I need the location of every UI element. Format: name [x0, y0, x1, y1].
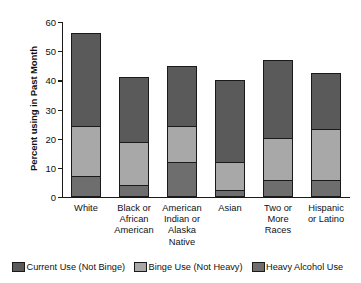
- bar-stack: [311, 73, 341, 197]
- legend-swatch: [12, 262, 25, 272]
- x-axis-label-line: White: [62, 203, 110, 214]
- x-axis-label-line: More: [254, 214, 302, 225]
- bar-segment: [263, 180, 293, 197]
- bar-segment: [119, 185, 149, 197]
- legend-label: Heavy Alcohol Use: [266, 262, 343, 272]
- bar-segment: [311, 180, 341, 198]
- y-tick-label: 50: [45, 46, 56, 57]
- bar-group: [167, 22, 197, 197]
- bar-segment: [215, 162, 245, 190]
- y-tick-label: 0: [51, 192, 56, 203]
- legend-label: Current Use (Not Binge): [27, 262, 126, 272]
- x-axis-label-line: American: [110, 225, 158, 236]
- x-axis-label: Asian: [206, 203, 254, 214]
- x-axis-label-line: Asian: [206, 203, 254, 214]
- bar-segment: [263, 60, 293, 138]
- legend-item: Binge Use (Not Heavy): [134, 262, 242, 272]
- bar-segment: [167, 162, 197, 197]
- bar-segment: [263, 138, 293, 179]
- y-axis-line: [62, 22, 63, 197]
- legend-label: Binge Use (Not Heavy): [149, 262, 243, 272]
- x-axis-line: [62, 197, 350, 198]
- bar-segment: [215, 80, 245, 162]
- bar-stack: [71, 33, 101, 197]
- y-axis-title: Percent using in Past Month: [28, 29, 39, 189]
- bar-group: [215, 22, 245, 197]
- bar-segment: [167, 126, 197, 162]
- y-tick-label: 20: [45, 133, 56, 144]
- bar-segment: [119, 142, 149, 185]
- x-axis-label-line: Black or: [110, 203, 158, 214]
- y-tick-mark: [58, 168, 62, 169]
- bar-group: [119, 22, 149, 197]
- x-axis-label-line: or Latino: [302, 214, 350, 225]
- y-tick-mark: [58, 197, 62, 198]
- bar-group: [311, 22, 341, 197]
- x-axis-label-line: American: [158, 203, 206, 214]
- y-tick-mark: [58, 22, 62, 23]
- legend-item: Current Use (Not Binge): [12, 262, 125, 272]
- x-axis-label-line: Indian or: [158, 214, 206, 225]
- x-axis-label-line: Hispanic: [302, 203, 350, 214]
- x-axis-label-line: Native: [158, 237, 206, 248]
- bar-stack: [167, 66, 197, 197]
- bar-segment: [71, 33, 101, 125]
- legend-swatch: [252, 262, 265, 272]
- x-axis-label-line: Races: [254, 225, 302, 236]
- bar-stack: [263, 60, 293, 197]
- x-axis-label: Two orMoreRaces: [254, 203, 302, 237]
- bar-stack: [215, 80, 245, 197]
- y-tick-mark: [58, 110, 62, 111]
- bar-segment: [311, 129, 341, 179]
- x-axis-label-line: Alaska: [158, 225, 206, 236]
- bar-segment: [71, 176, 101, 197]
- legend-swatch: [134, 262, 147, 272]
- bar-group: [71, 22, 101, 197]
- legend-item: Heavy Alcohol Use: [252, 262, 344, 272]
- plot-area: 0102030405060 WhiteBlack orAfricanAmeric…: [62, 22, 350, 197]
- x-axis-label: Hispanicor Latino: [302, 203, 350, 225]
- x-axis-label-line: Two or: [254, 203, 302, 214]
- x-axis-label: White: [62, 203, 110, 214]
- bar-segment: [167, 66, 197, 127]
- bar-segment: [71, 126, 101, 176]
- bar-segment: [311, 73, 341, 129]
- x-axis-label-line: African: [110, 214, 158, 225]
- y-tick-label: 40: [45, 75, 56, 86]
- bar-stack: [119, 77, 149, 197]
- stacked-bar-chart: Percent using in Past Month 010203040506…: [0, 0, 361, 283]
- bar-segment: [215, 190, 245, 197]
- y-tick-mark: [58, 80, 62, 81]
- y-tick-label: 30: [45, 104, 56, 115]
- bar-group: [263, 22, 293, 197]
- y-tick-mark: [58, 139, 62, 140]
- y-tick-mark: [58, 51, 62, 52]
- chart-legend: Current Use (Not Binge)Binge Use (Not He…: [12, 262, 352, 272]
- x-axis-label: Black orAfricanAmerican: [110, 203, 158, 237]
- y-tick-label: 60: [45, 17, 56, 28]
- x-axis-label: AmericanIndian orAlaskaNative: [158, 203, 206, 248]
- y-tick-label: 10: [45, 162, 56, 173]
- bar-segment: [119, 77, 149, 142]
